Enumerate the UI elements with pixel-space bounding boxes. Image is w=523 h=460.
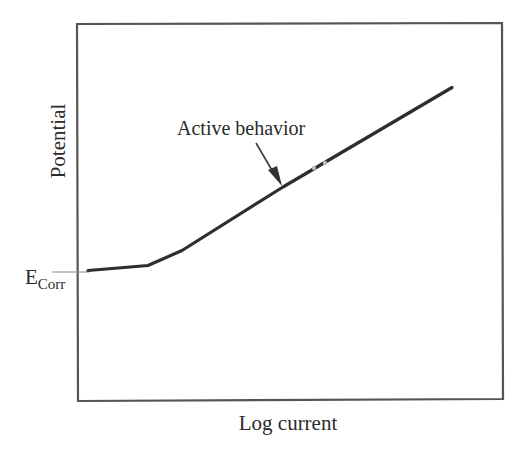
scan-artifact [312,166,316,170]
y-axis-label: Potential [46,104,71,179]
plot-frame [77,23,503,401]
annotation-arrow-shaft [256,143,273,172]
ecorr-label-main: E [25,265,38,289]
polarization-curve [88,88,452,271]
x-axis-label: Log current [239,411,338,436]
annotation-arrow-head-icon [268,166,282,186]
diagram-canvas [0,0,523,460]
ecorr-label-subscript: Corr [38,276,66,292]
scan-artifact [323,161,327,165]
polarization-diagram: Potential Log current Active behavior EC… [0,0,523,460]
annotation-active-behavior: Active behavior [177,117,305,140]
ecorr-label: ECorr [25,265,65,290]
